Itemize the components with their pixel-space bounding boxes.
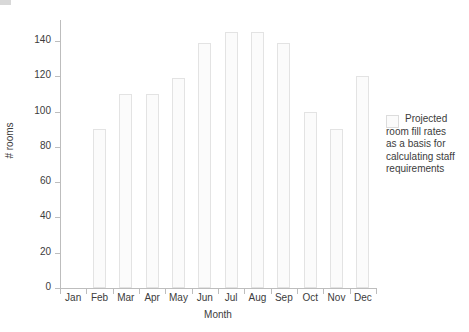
- legend-swatch-series-1: [386, 115, 399, 128]
- chart-legend: Projected room fill rates as a basis for…: [386, 113, 469, 176]
- bar-jul: [225, 32, 238, 288]
- x-axis-label: Month: [60, 309, 376, 320]
- bar-may: [172, 78, 185, 288]
- bar-mar: [119, 94, 132, 288]
- y-axis-tick: 100: [0, 112, 60, 113]
- bar-dec: [356, 76, 369, 288]
- x-tick-label-oct: Oct: [297, 292, 323, 303]
- legend-line-5: requirements: [386, 163, 469, 176]
- y-tick-label: 120: [34, 69, 51, 80]
- y-axis-tick: 20: [0, 253, 60, 254]
- plot-area: [60, 20, 376, 288]
- y-axis-tick: 0: [0, 288, 60, 289]
- x-tick-label-mar: Mar: [113, 292, 139, 303]
- bar-apr: [146, 94, 159, 288]
- y-axis-tick: 60: [0, 182, 60, 183]
- x-tick-label-dec: Dec: [350, 292, 376, 303]
- bar-chart-figure: # rooms 020406080100120140 JanFebMarAprM…: [0, 0, 469, 332]
- image-corner-artifact: [0, 0, 11, 5]
- y-axis-tick: 140: [0, 41, 60, 42]
- legend-line-3: as a basis for: [386, 138, 469, 151]
- x-tick-label-nov: Nov: [323, 292, 349, 303]
- x-tick-label-jan: Jan: [60, 292, 86, 303]
- bar-aug: [251, 32, 264, 288]
- bar-sep: [277, 43, 290, 288]
- y-tick-label: 40: [40, 210, 51, 221]
- y-axis-tick: 40: [0, 217, 60, 218]
- x-tick-label-apr: Apr: [139, 292, 165, 303]
- x-tick-mark: [376, 289, 377, 294]
- bar-oct: [304, 112, 317, 288]
- y-tick-label: 100: [34, 105, 51, 116]
- x-tick-label-may: May: [165, 292, 191, 303]
- y-tick-label: 140: [34, 34, 51, 45]
- x-tick-label-sep: Sep: [271, 292, 297, 303]
- bar-nov: [330, 129, 343, 288]
- legend-line-4: calculating staff: [386, 151, 469, 164]
- y-tick-label: 0: [45, 281, 51, 292]
- x-tick-label-jul: Jul: [218, 292, 244, 303]
- y-axis-tick: 80: [0, 147, 60, 148]
- y-tick-label: 80: [40, 140, 51, 151]
- x-tick-label-feb: Feb: [86, 292, 112, 303]
- y-axis-tick: 120: [0, 76, 60, 77]
- x-tick-label-jun: Jun: [192, 292, 218, 303]
- y-axis-label: # rooms: [4, 111, 15, 171]
- y-tick-label: 20: [40, 246, 51, 257]
- y-tick-label: 60: [40, 175, 51, 186]
- bar-jun: [198, 43, 211, 288]
- bar-feb: [93, 129, 106, 288]
- x-tick-label-aug: Aug: [244, 292, 270, 303]
